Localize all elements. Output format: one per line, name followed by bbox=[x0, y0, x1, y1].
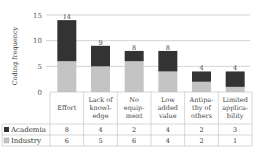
table-cell: 2 bbox=[132, 126, 136, 134]
table-cell: 3 bbox=[233, 126, 237, 134]
table-cell: 2 bbox=[199, 137, 203, 145]
table-cell: 4 bbox=[98, 126, 102, 134]
category-label: Antipa-thy ofothers bbox=[189, 96, 214, 120]
bar-academia bbox=[91, 46, 110, 67]
total-label: 9 bbox=[98, 39, 102, 47]
table-cell: 6 bbox=[132, 137, 136, 145]
y-axis-label: Coding frequency bbox=[11, 26, 19, 85]
table-cell: 1 bbox=[233, 137, 237, 145]
total-label: 14 bbox=[63, 13, 71, 21]
category-label: Lack ofknowl-edge bbox=[88, 96, 113, 120]
bar-industry bbox=[91, 66, 110, 92]
bar-industry bbox=[158, 71, 177, 92]
bar-industry bbox=[57, 61, 76, 92]
bar-academia bbox=[192, 71, 211, 81]
bars bbox=[57, 20, 244, 92]
bar-academia bbox=[57, 20, 76, 61]
bar-industry bbox=[192, 82, 211, 92]
legend-label-industry: Industry bbox=[11, 137, 41, 145]
category-label: Noequip-ment bbox=[124, 96, 145, 120]
table-cell: 6 bbox=[65, 137, 69, 145]
legend-swatch-academia bbox=[4, 127, 9, 132]
data-labels: 1498844 bbox=[63, 13, 238, 72]
stacked-bar-chart: 051015 Coding frequency 1498844 EffortLa… bbox=[0, 0, 254, 150]
table-cell: 2 bbox=[199, 126, 203, 134]
total-label: 4 bbox=[199, 64, 203, 72]
legend-swatch-industry bbox=[4, 138, 9, 143]
y-tick-label: 0 bbox=[38, 89, 42, 97]
bar-academia bbox=[226, 71, 245, 86]
data-table: EffortLack ofknowl-edgeNoequip-mentLowad… bbox=[2, 92, 252, 146]
total-label: 4 bbox=[233, 64, 237, 72]
table-cell: 4 bbox=[166, 126, 170, 134]
total-label: 8 bbox=[166, 44, 170, 52]
category-label: Lowaddedvalue bbox=[158, 96, 178, 120]
gridlines bbox=[46, 15, 250, 66]
category-label: Limitedapplica-bility bbox=[222, 96, 248, 120]
y-tick-label: 15 bbox=[33, 12, 42, 20]
y-tick-label: 5 bbox=[38, 63, 42, 71]
table-cell: 8 bbox=[65, 126, 69, 134]
category-label: Effort bbox=[57, 104, 76, 112]
y-axis-ticks: 051015 bbox=[33, 12, 42, 97]
bar-industry bbox=[125, 61, 144, 92]
table-cell: 5 bbox=[98, 137, 102, 145]
bar-academia bbox=[158, 51, 177, 72]
legend-label-academia: Academia bbox=[10, 126, 46, 134]
bar-academia bbox=[125, 51, 144, 61]
total-label: 8 bbox=[132, 44, 136, 52]
table-cell: 4 bbox=[166, 137, 170, 145]
y-tick-label: 10 bbox=[33, 37, 42, 45]
bar-industry bbox=[226, 87, 245, 92]
